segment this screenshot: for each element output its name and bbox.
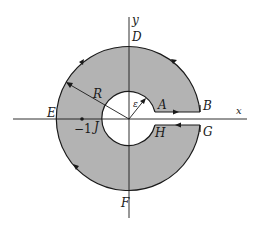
label-x-axis: x — [236, 106, 242, 116]
label-j: J — [94, 121, 99, 133]
label-a: A — [158, 99, 167, 111]
radius-epsilon-arrowhead-icon — [140, 98, 146, 104]
label-g: G — [203, 126, 213, 138]
contour-graphic — [0, 0, 261, 230]
keyhole-contour-diagram: y x D E F B G A H J R ε −1 — [0, 0, 261, 230]
label-minus-one: −1 — [74, 123, 92, 135]
label-h: H — [155, 127, 165, 139]
label-y-axis: y — [132, 14, 139, 26]
label-b: B — [203, 100, 212, 112]
label-epsilon: ε — [133, 100, 138, 109]
point-minus-one — [80, 117, 84, 121]
label-f: F — [121, 197, 129, 209]
label-r: R — [93, 88, 102, 100]
label-d: D — [132, 31, 142, 43]
label-e: E — [47, 107, 56, 119]
